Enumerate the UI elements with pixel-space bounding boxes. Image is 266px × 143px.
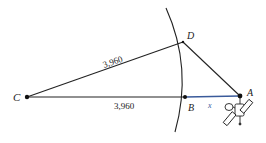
label-d: D — [186, 30, 195, 41]
label-cb-length: 3,960 — [114, 101, 135, 111]
segment-ba — [185, 96, 240, 97]
point-c — [25, 95, 29, 99]
segment-da — [183, 42, 240, 96]
point-a — [238, 94, 243, 99]
satellite-icon — [223, 98, 253, 126]
earth-satellite-diagram: C D B A 3,960 3,960 x — [0, 0, 266, 143]
label-ba-x: x — [207, 101, 212, 110]
label-a: A — [246, 87, 254, 98]
label-c: C — [13, 91, 21, 103]
label-b: B — [188, 102, 194, 113]
label-cd-length: 3,960 — [101, 54, 124, 70]
earth-surface-arc — [166, 8, 182, 132]
point-d — [182, 41, 184, 43]
point-b — [183, 95, 187, 99]
